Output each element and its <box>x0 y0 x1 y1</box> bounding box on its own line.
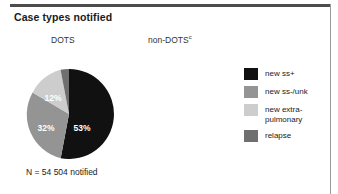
legend-swatch-icon <box>244 130 258 142</box>
pie-svg: 53% 32% 12% 3% <box>24 69 114 159</box>
chart-panel: Case types notified DOTS non-DOTSc 53% 3… <box>0 0 338 194</box>
pie-total-caption: N = 54 504 notified <box>26 167 98 177</box>
pie-value-new-ss-plus: 53% <box>73 123 90 133</box>
dots-column-heading: DOTS <box>51 35 75 45</box>
legend-item-label: relapse <box>265 130 291 141</box>
panel-top-rule <box>10 4 330 7</box>
legend-item-label: new extra- pulmonary <box>265 104 302 124</box>
legend-swatch-icon <box>244 68 258 80</box>
page-title: Case types notified <box>14 11 112 23</box>
legend-item-label: new ss-/unk <box>265 86 308 97</box>
legend-swatch-icon <box>244 104 258 116</box>
legend-item-relapse: relapse <box>244 130 336 142</box>
pie-value-new-extra-pulmonary: 12% <box>44 93 61 103</box>
legend-item-new-extra-pulmonary: new extra- pulmonary <box>244 104 336 124</box>
legend-item-new-ss-plus: new ss+ <box>244 68 336 80</box>
dots-pie-chart: 53% 32% 12% 3% <box>24 69 114 159</box>
non-dots-column-heading: non-DOTSc <box>148 35 192 45</box>
legend-item-label: new ss+ <box>265 68 295 79</box>
legend-swatch-icon <box>244 86 258 98</box>
legend-item-new-ss-minus-unk: new ss-/unk <box>244 86 336 98</box>
non-dots-label: non-DOTS <box>148 35 189 45</box>
non-dots-footnote-marker: c <box>189 34 192 40</box>
pie-value-new-ss-minus-unk: 32% <box>37 123 54 133</box>
legend: new ss+ new ss-/unk new extra- pulmonary… <box>244 68 336 148</box>
